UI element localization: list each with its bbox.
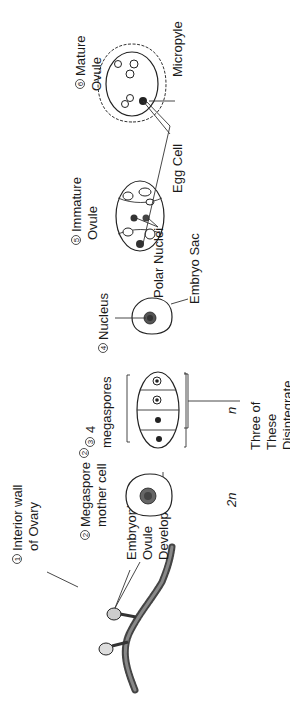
stage-2-label: 2 bbox=[80, 449, 90, 458]
svg-text:2: 2 bbox=[80, 450, 89, 455]
svg-text:Nucleus: Nucleus bbox=[96, 293, 111, 340]
svg-text:Micropyle: Micropyle bbox=[170, 21, 185, 77]
svg-text:Embryo Sac: Embryo Sac bbox=[187, 233, 202, 304]
embryonic-ovule-1 bbox=[107, 608, 136, 620]
svg-text:5: 5 bbox=[72, 237, 81, 242]
svg-text:Ovule: Ovule bbox=[89, 57, 104, 91]
ploidy-2n: 2n bbox=[224, 493, 239, 508]
three-disintegrate-label: Three of These Disintegrate bbox=[248, 381, 290, 450]
svg-text:Polar Nuclei: Polar Nuclei bbox=[151, 228, 166, 298]
disintegrate-line2: These bbox=[264, 414, 279, 450]
stage-1-label-line2: of Ovary bbox=[26, 501, 41, 551]
svg-text:2: 2 bbox=[81, 532, 90, 537]
stage-2-text: 2 Megaspore mother cell bbox=[78, 462, 109, 540]
megaspore-mother-cell bbox=[126, 474, 172, 516]
stage-1-label-line1: Interior wall bbox=[10, 484, 25, 551]
embryo-sac-label: Embryo Sac bbox=[171, 233, 202, 304]
svg-text:Ovule: Ovule bbox=[85, 206, 100, 240]
svg-text:megaspores: megaspores bbox=[99, 376, 114, 448]
stage-5-text: 5 Immature Ovule bbox=[69, 177, 100, 244]
svg-text:4: 4 bbox=[83, 426, 98, 433]
svg-text:1: 1 bbox=[13, 556, 22, 561]
svg-text:Egg Cell: Egg Cell bbox=[170, 144, 185, 193]
svg-text:Immature: Immature bbox=[69, 177, 84, 232]
disintegrate-line3: Disintegrate bbox=[280, 381, 290, 450]
svg-text:Mature: Mature bbox=[73, 36, 88, 76]
svg-text:mother cell: mother cell bbox=[94, 463, 109, 527]
stage-3-text: 3 4 megaspores bbox=[83, 376, 114, 448]
stage-1-label: 1 Interior wall of Ovary bbox=[10, 484, 78, 587]
mature-ovule bbox=[98, 44, 166, 122]
four-megaspores bbox=[137, 372, 179, 448]
ovary-wall bbox=[99, 547, 172, 690]
ploidy-n: n bbox=[224, 407, 239, 414]
svg-text:4: 4 bbox=[99, 345, 108, 350]
svg-text:3: 3 bbox=[86, 439, 95, 444]
disintegrate-line1: Three of bbox=[248, 401, 263, 450]
embryo-sac-cell bbox=[132, 298, 172, 334]
stage-6-text: 6 Mature Ovule bbox=[73, 36, 104, 91]
svg-text:Megaspore: Megaspore bbox=[78, 462, 93, 527]
embryonic-label-line2: Ovule bbox=[140, 526, 155, 560]
ovule-development-diagram: 1 Interior wall of Ovary Embryonic Ovule… bbox=[0, 0, 290, 712]
svg-text:6: 6 bbox=[76, 81, 85, 86]
